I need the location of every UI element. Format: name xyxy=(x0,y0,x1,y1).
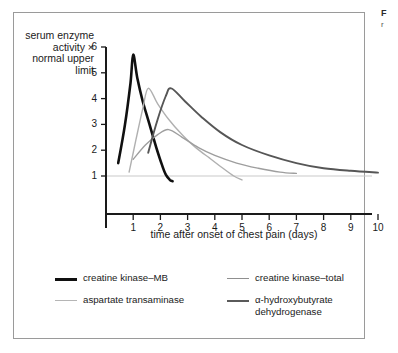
x-tick-label: 8 xyxy=(316,222,332,233)
legend-item[interactable]: α-hydroxybutyrate dehydrogenase xyxy=(227,294,362,317)
legend-label: aspartate transaminase xyxy=(83,294,184,306)
corner-mark: F r xyxy=(381,8,397,30)
x-tick-label: 3 xyxy=(180,222,196,233)
y-tick-label: 5 xyxy=(85,67,97,78)
x-tick-label: 9 xyxy=(343,222,359,233)
legend-label: α-hydroxybutyrate dehydrogenase xyxy=(255,294,362,317)
legend-swatch-line xyxy=(55,278,77,281)
legend-item[interactable]: creatine kinase–MB xyxy=(55,272,205,284)
legend-item[interactable]: creatine kinase–total xyxy=(227,272,362,284)
y-axis-label: serum enzyme activity × normal upper lim… xyxy=(22,30,94,76)
x-tick-label: 5 xyxy=(234,222,250,233)
x-tick-label: 4 xyxy=(207,222,223,233)
y-tick-label: 1 xyxy=(85,170,97,181)
x-tick-label: 7 xyxy=(288,222,304,233)
legend-swatch-line xyxy=(227,300,249,302)
x-tick-label: 1 xyxy=(125,222,141,233)
y-tick-label: 4 xyxy=(85,93,97,104)
legend-label: creatine kinase–MB xyxy=(83,272,168,284)
y-tick-label: 2 xyxy=(85,144,97,155)
legend-label: creatine kinase–total xyxy=(255,272,344,284)
y-tick-label: 6 xyxy=(85,41,97,52)
legend-item[interactable]: aspartate transaminase xyxy=(55,294,205,306)
x-tick-label: 10 xyxy=(370,222,386,233)
x-tick-label: 2 xyxy=(152,222,168,233)
legend-swatch-line xyxy=(227,278,249,279)
y-tick-label: 3 xyxy=(85,118,97,129)
legend-swatch-line xyxy=(55,300,77,301)
corner-mark-sub: r xyxy=(381,19,397,30)
x-tick-label: 6 xyxy=(261,222,277,233)
corner-mark-letter: F xyxy=(381,8,397,19)
